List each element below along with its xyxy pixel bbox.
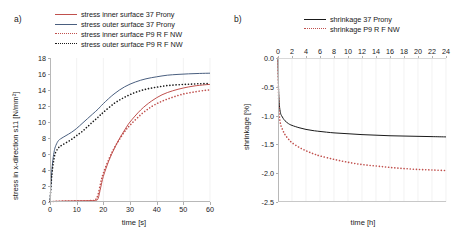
- x-tick-mark: [446, 56, 447, 59]
- y-tick-mark: [276, 87, 279, 88]
- y-axis-title-a: stress in x-direction s11 [N/mm²]: [11, 92, 20, 200]
- y-tick-label: 6: [24, 150, 46, 159]
- y-tick-mark: [48, 138, 51, 139]
- legend-key-line-solid-black: [304, 15, 326, 23]
- x-tick-mark: [320, 56, 321, 59]
- x-tick-label: 30: [126, 205, 134, 214]
- x-axis-title-a: time [s]: [0, 218, 228, 227]
- y-tick-mark: [48, 122, 51, 123]
- legend-panel-b: shrinkage 37 Prony shrinkage P9 R F NW: [304, 14, 400, 34]
- y-tick-mark: [48, 170, 51, 171]
- y-tick-label: 12: [24, 102, 46, 111]
- x-tick-mark: [334, 56, 335, 59]
- x-tick-mark: [103, 202, 104, 205]
- y-tick-label: 4: [24, 166, 46, 175]
- panel-a: a) stress inner surface 37 Prony stress …: [0, 0, 228, 243]
- y-tick-mark: [276, 116, 279, 117]
- x-tick-label: 50: [179, 205, 187, 214]
- x-tick-mark: [210, 202, 211, 205]
- y-tick-mark: [48, 90, 51, 91]
- y-tick-mark: [276, 202, 279, 203]
- x-tick-label: 10: [73, 205, 81, 214]
- y-tick-mark: [276, 144, 279, 145]
- legend-key-line-dotted-red: [55, 30, 77, 38]
- plot-frame-b: [278, 58, 446, 202]
- y-tick-mark: [48, 106, 51, 107]
- y-tick-label: 14: [24, 86, 46, 95]
- y-tick-label: -2.5: [252, 198, 274, 207]
- y-tick-mark: [48, 154, 51, 155]
- legend-key-line-dotted-red: [304, 25, 326, 33]
- y-tick-mark: [48, 202, 51, 203]
- x-tick-mark: [157, 202, 158, 205]
- legend-key-line-solid-blue: [55, 20, 77, 28]
- y-tick-mark: [48, 58, 51, 59]
- figure: a) stress inner surface 37 Prony stress …: [0, 0, 456, 243]
- plot-area-b: [278, 58, 446, 202]
- legend-item: stress inner surface P9 R F NW: [55, 29, 183, 39]
- x-tick-mark: [50, 202, 51, 205]
- legend-label: shrinkage P9 R F NW: [330, 25, 400, 34]
- y-tick-label: 16: [24, 70, 46, 79]
- plot-area-a: [50, 58, 210, 202]
- y-tick-label: 0.0: [252, 54, 274, 63]
- legend-label: stress outer surface 37 Prony: [81, 20, 175, 29]
- y-tick-label: 10: [24, 118, 46, 127]
- x-tick-label: 20: [99, 205, 107, 214]
- plot-frame-a: [50, 58, 210, 202]
- x-tick-label: 0: [48, 205, 52, 214]
- x-tick-mark: [376, 56, 377, 59]
- panel-b-label: b): [234, 14, 242, 24]
- x-tick-mark: [292, 56, 293, 59]
- x-tick-label: 40: [153, 205, 161, 214]
- y-tick-mark: [48, 186, 51, 187]
- legend-label: shrinkage 37 Prony: [330, 15, 392, 24]
- legend-item: shrinkage 37 Prony: [304, 14, 400, 24]
- panel-a-label: a): [14, 14, 22, 24]
- y-tick-mark: [276, 58, 279, 59]
- x-tick-mark: [130, 202, 131, 205]
- legend-item: shrinkage P9 R F NW: [304, 24, 400, 34]
- legend-panel-a: stress inner surface 37 Prony stress out…: [55, 9, 183, 49]
- y-tick-label: -1.0: [252, 111, 274, 120]
- x-tick-mark: [390, 56, 391, 59]
- y-tick-label: 18: [24, 54, 46, 63]
- y-tick-label: 0: [24, 198, 46, 207]
- y-tick-mark: [48, 74, 51, 75]
- x-tick-mark: [77, 202, 78, 205]
- x-tick-mark: [404, 56, 405, 59]
- legend-key-line-solid-red: [55, 10, 77, 18]
- legend-label: stress outer surface P9 R F NW: [81, 40, 183, 49]
- x-tick-mark: [432, 56, 433, 59]
- legend-item: stress outer surface P9 R F NW: [55, 39, 183, 49]
- y-tick-label: -1.5: [252, 140, 274, 149]
- legend-item: stress inner surface 37 Prony: [55, 9, 183, 19]
- legend-key-line-dotted-black: [55, 40, 77, 48]
- x-tick-mark: [278, 56, 279, 59]
- x-tick-mark: [348, 56, 349, 59]
- x-axis-title-b: time [h]: [228, 218, 456, 227]
- legend-item: stress outer surface 37 Prony: [55, 19, 183, 29]
- y-tick-label: 8: [24, 134, 46, 143]
- x-tick-mark: [183, 202, 184, 205]
- y-tick-mark: [276, 173, 279, 174]
- x-tick-mark: [306, 56, 307, 59]
- y-axis-title-b: shrinkage [%]: [242, 104, 251, 150]
- legend-label: stress inner surface P9 R F NW: [81, 30, 182, 39]
- panel-b: b) shrinkage 37 Prony shrinkage P9 R F N…: [228, 0, 456, 243]
- y-tick-label: -0.5: [252, 82, 274, 91]
- x-tick-mark: [418, 56, 419, 59]
- x-tick-mark: [362, 56, 363, 59]
- y-tick-label: -2.0: [252, 169, 274, 178]
- legend-label: stress inner surface 37 Prony: [81, 10, 174, 19]
- y-tick-label: 2: [24, 182, 46, 191]
- x-tick-label: 60: [206, 205, 214, 214]
